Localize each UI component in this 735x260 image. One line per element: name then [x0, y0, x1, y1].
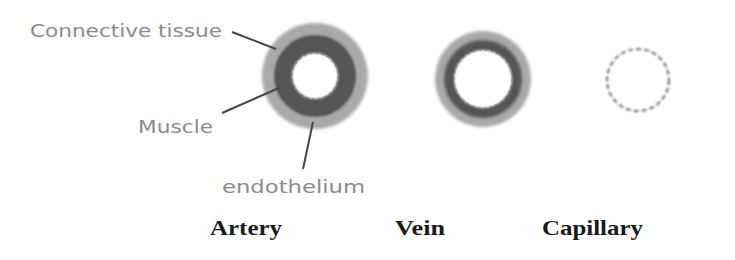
connective-tissue-label: Connective tissue: [30, 20, 222, 41]
artery-title: Artery: [210, 216, 283, 240]
endothelium-label: endothelium: [222, 176, 365, 197]
endothelium-leader-line: [303, 122, 313, 169]
capillary-endothelium: [607, 49, 669, 111]
artery-cross-section: [262, 23, 368, 129]
capillary-title: Capillary: [542, 216, 644, 240]
blood-vessel-diagram: Connective tissue Muscle endothelium Art…: [0, 0, 735, 260]
vein-cross-section: [435, 31, 531, 127]
vein-title: Vein: [395, 216, 445, 240]
muscle-label: Muscle: [138, 116, 213, 137]
artery-lumen: [292, 53, 338, 99]
capillary-cross-section: [607, 49, 669, 111]
connective-tissue-leader-line: [232, 32, 276, 49]
diagram-canvas: Connective tissue Muscle endothelium Art…: [0, 0, 735, 260]
